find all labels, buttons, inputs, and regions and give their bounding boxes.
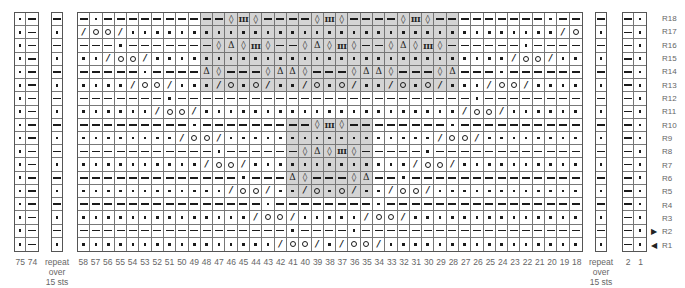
chart-cell xyxy=(570,106,582,119)
purl-symbol xyxy=(448,151,456,153)
purl-symbol xyxy=(485,71,493,73)
purl-symbol xyxy=(325,71,333,73)
purl-symbol xyxy=(534,18,542,20)
chart-cell xyxy=(422,92,434,105)
chart-cell xyxy=(484,53,496,66)
chart-cell xyxy=(385,106,397,119)
chart-cell xyxy=(164,211,176,224)
chart-cell xyxy=(348,53,360,66)
purl-symbol xyxy=(276,18,284,20)
knit-symbol xyxy=(639,71,642,74)
chart-cell xyxy=(520,106,532,119)
purl-symbol xyxy=(92,177,100,179)
chart-cell xyxy=(176,158,188,171)
chart-cell xyxy=(447,79,459,92)
chart-cell xyxy=(422,106,434,119)
chart-cell xyxy=(127,106,139,119)
purl-symbol xyxy=(53,124,61,126)
knit-symbol xyxy=(390,243,393,246)
chart-cell xyxy=(459,13,471,26)
column-number: 52 xyxy=(151,257,163,267)
triangle-symbol: Δ xyxy=(363,173,370,182)
chart-cell xyxy=(164,145,176,158)
chart-cell: ◊ xyxy=(213,66,225,79)
chart-cell xyxy=(545,79,557,92)
knit-symbol xyxy=(500,216,503,219)
knit-symbol xyxy=(476,84,479,87)
chart-cell xyxy=(557,211,569,224)
chart-cell xyxy=(139,106,151,119)
purl-symbol xyxy=(153,18,161,20)
chart-cell xyxy=(275,211,287,224)
knit-symbol xyxy=(119,84,122,87)
knit-symbol xyxy=(19,124,22,127)
column-number: 27 xyxy=(460,257,472,267)
chart-cell xyxy=(545,185,557,198)
chart-cell xyxy=(115,106,127,119)
chart-cell xyxy=(262,238,274,251)
purl-symbol xyxy=(448,230,456,232)
chart-cell xyxy=(176,211,188,224)
chart-cell: III xyxy=(336,145,348,158)
purl-symbol xyxy=(461,230,469,232)
chart-cell xyxy=(570,172,582,185)
purl-symbol xyxy=(166,177,174,179)
purl-symbol xyxy=(276,124,284,126)
knit-symbol xyxy=(402,243,405,246)
chart-cell xyxy=(26,39,37,52)
chart-cell xyxy=(127,158,139,171)
column-number: 56 xyxy=(102,257,114,267)
k2tog-symbol: / xyxy=(279,240,282,249)
knit-symbol xyxy=(82,190,85,193)
chart-cell xyxy=(139,145,151,158)
chart-cell xyxy=(434,53,446,66)
purl-symbol xyxy=(325,177,333,179)
knit-symbol xyxy=(353,31,356,34)
chart-cell xyxy=(189,198,201,211)
chart-cell xyxy=(189,66,201,79)
chart-cell xyxy=(459,53,471,66)
purl-symbol xyxy=(313,177,321,179)
purl-symbol xyxy=(362,18,370,20)
row-label: R7 xyxy=(662,161,672,170)
chart-cell xyxy=(410,198,422,211)
purl-symbol xyxy=(117,177,125,179)
chart-cell xyxy=(508,92,520,105)
main-chart-grid: ◊III◊◊III◊◊III◊///◊Δ◊III◊◊Δ◊III◊◊Δ◊III◊/… xyxy=(77,12,583,252)
purl-symbol xyxy=(624,137,632,139)
chart-cell xyxy=(152,185,164,198)
knit-symbol xyxy=(82,57,85,60)
chart-cell xyxy=(570,13,582,26)
chart-cell xyxy=(115,238,127,251)
chart-cell xyxy=(299,53,311,66)
k2tog-symbol: / xyxy=(463,107,466,116)
chart-cell xyxy=(545,225,557,238)
chart-cell xyxy=(312,26,324,39)
chart-cell xyxy=(52,26,62,39)
knit-symbol xyxy=(291,110,294,113)
knit-symbol xyxy=(451,110,454,113)
knit-symbol xyxy=(279,190,282,193)
purl-symbol xyxy=(461,151,469,153)
chart-cell xyxy=(634,13,645,26)
chart-cell xyxy=(176,13,188,26)
chart-cell xyxy=(496,132,508,145)
knit-symbol xyxy=(254,163,257,166)
purl-symbol xyxy=(485,151,493,153)
k2tog-symbol: / xyxy=(488,81,491,90)
purl-symbol xyxy=(117,203,125,205)
chart-cell xyxy=(15,13,26,26)
chart-cell xyxy=(361,13,373,26)
column-number: 43 xyxy=(262,257,274,267)
chart-cell xyxy=(596,26,606,39)
knit-symbol xyxy=(242,243,245,246)
purl-symbol xyxy=(510,18,518,20)
knit-symbol xyxy=(377,110,380,113)
purl-symbol xyxy=(129,98,137,100)
chart-cell xyxy=(496,53,508,66)
purl-symbol xyxy=(387,18,395,20)
yarn-over-symbol xyxy=(290,241,296,247)
chart-cell xyxy=(225,106,237,119)
chart-cell xyxy=(299,119,311,132)
knit-symbol xyxy=(95,190,98,193)
